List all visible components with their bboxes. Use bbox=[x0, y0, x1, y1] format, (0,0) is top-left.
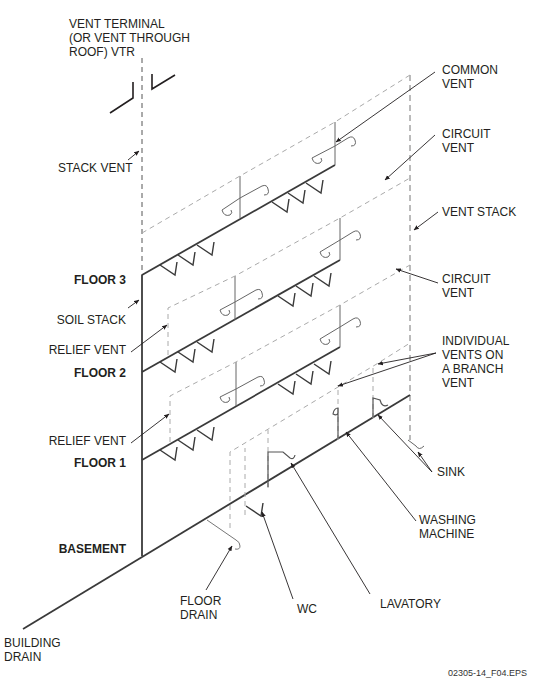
label-floor3: FLOOR 3 bbox=[74, 273, 126, 287]
figure-id-label: 02305-14_F04.EPS bbox=[448, 668, 527, 678]
label-building-drain: BUILDING DRAIN bbox=[4, 636, 61, 664]
label-sink: SINK bbox=[437, 465, 465, 479]
label-stack-vent: STACK VENT bbox=[58, 161, 132, 175]
floor3-branch bbox=[142, 75, 410, 275]
label-circuit-vent-mid: CIRCUIT VENT bbox=[442, 272, 491, 300]
floor2-branch bbox=[142, 178, 410, 372]
label-wc: WC bbox=[297, 602, 317, 616]
label-vent-terminal: VENT TERMINAL (OR VENT THROUGH ROOF) VTR bbox=[69, 17, 190, 59]
label-floor2: FLOOR 2 bbox=[74, 366, 126, 380]
label-floor-drain: FLOOR DRAIN bbox=[180, 594, 221, 622]
label-washing-machine: WASHING MACHINE bbox=[419, 513, 476, 541]
label-relief-vent-lower: RELIEF VENT bbox=[49, 434, 126, 448]
label-circuit-vent-top: CIRCUIT VENT bbox=[442, 127, 491, 155]
label-soil-stack: SOIL STACK bbox=[57, 313, 126, 327]
label-basement: BASEMENT bbox=[59, 542, 126, 556]
label-individual-vents: INDIVIDUAL VENTS ON A BRANCH VENT bbox=[442, 334, 509, 390]
floor1-branch bbox=[142, 265, 410, 460]
basement-fixtures bbox=[207, 343, 424, 549]
label-lavatory: LAVATORY bbox=[380, 597, 441, 611]
label-relief-vent-upper: RELIEF VENT bbox=[49, 343, 126, 357]
label-vent-stack: VENT STACK bbox=[442, 205, 516, 219]
label-common-vent: COMMON VENT bbox=[442, 63, 498, 91]
label-floor1: FLOOR 1 bbox=[74, 456, 126, 470]
